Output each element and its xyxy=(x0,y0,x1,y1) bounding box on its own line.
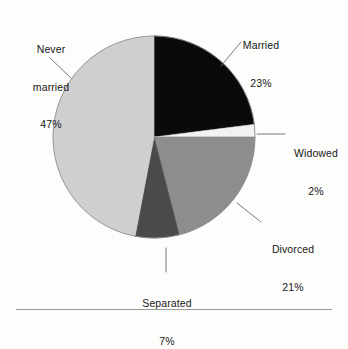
pie-label-never-married: Never married 47% xyxy=(14,18,88,156)
pie-label-never-married-line2: married xyxy=(14,81,88,94)
pie-label-widowed: Widowed 2% xyxy=(286,122,346,222)
pie-label-married: Married 23% xyxy=(228,14,294,114)
pie-label-widowed-value: 2% xyxy=(286,185,346,198)
pie-label-divorced: Divorced 21% xyxy=(258,218,328,318)
pie-label-separated-name: Separated xyxy=(127,297,207,310)
pie-label-divorced-value: 21% xyxy=(258,281,328,294)
pie-label-married-name: Married xyxy=(228,39,294,52)
pie-label-separated: Separated 7% xyxy=(127,272,207,349)
pie-label-widowed-name: Widowed xyxy=(286,147,346,160)
pie-label-never-married-value: 47% xyxy=(14,118,88,131)
footer-rule xyxy=(16,309,332,310)
pie-label-never-married-line1: Never xyxy=(14,43,88,56)
pie-label-divorced-name: Divorced xyxy=(258,243,328,256)
pie-label-separated-value: 7% xyxy=(127,335,207,348)
pie-label-married-value: 23% xyxy=(228,77,294,90)
